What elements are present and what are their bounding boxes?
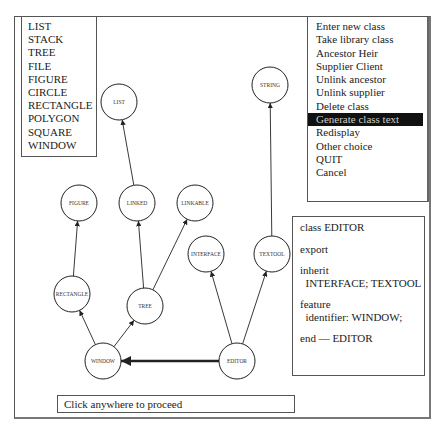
class-text-line: INTERFACE; TEXTOOL bbox=[300, 277, 424, 290]
svg-text:EDITOR: EDITOR bbox=[227, 358, 247, 364]
class-text-panel: class EDITOR export inherit INTERFACE; T… bbox=[292, 216, 425, 376]
class-node-textool[interactable]: TEXTOOL bbox=[254, 236, 290, 272]
class-text-line: export bbox=[300, 243, 424, 256]
menu-item-enter-new-class[interactable]: Enter new class bbox=[308, 20, 427, 33]
class-list-item[interactable]: RECTANGLE bbox=[28, 99, 96, 112]
edge-tree-to-linked bbox=[138, 221, 143, 288]
class-node-window[interactable]: WINDOW bbox=[85, 343, 121, 379]
svg-text:FIGURE: FIGURE bbox=[69, 200, 90, 206]
class-node-editor[interactable]: EDITOR bbox=[219, 343, 255, 379]
edge-editor-to-textool bbox=[243, 271, 267, 344]
class-text-line: class EDITOR bbox=[300, 221, 424, 234]
menu-item-quit[interactable]: QUIT bbox=[308, 153, 427, 166]
svg-text:TEXTOOL: TEXTOOL bbox=[259, 251, 285, 257]
class-list-item[interactable]: TREE bbox=[28, 46, 96, 59]
svg-text:STRING: STRING bbox=[260, 82, 280, 88]
class-list-item[interactable]: SQUARE bbox=[28, 126, 96, 139]
edge-window-to-rectangle bbox=[80, 310, 96, 344]
edge-window-to-tree bbox=[114, 320, 134, 346]
edge-linked-to-list bbox=[122, 120, 134, 186]
svg-text:LINKABLE: LINKABLE bbox=[181, 200, 209, 206]
class-node-string[interactable]: STRING bbox=[252, 67, 288, 103]
menu-item-redisplay[interactable]: Redisplay bbox=[308, 126, 427, 139]
class-list-item[interactable]: LIST bbox=[28, 20, 96, 33]
edge-editor-to-interface bbox=[211, 271, 232, 343]
menu-item-ancestor-heir[interactable]: Ancestor Heir bbox=[308, 47, 427, 60]
svg-text:WINDOW: WINDOW bbox=[91, 358, 116, 364]
class-text-line: feature bbox=[300, 298, 424, 311]
class-node-tree[interactable]: TREE bbox=[127, 288, 163, 324]
svg-text:RECTANGLE: RECTANGLE bbox=[56, 291, 89, 297]
class-list-item[interactable]: FILE bbox=[28, 60, 96, 73]
svg-text:INTERFACE: INTERFACE bbox=[191, 251, 221, 257]
menu-item-generate-class-text[interactable]: Generate class text bbox=[308, 113, 423, 126]
class-list-item[interactable]: STACK bbox=[28, 33, 96, 46]
class-list-item[interactable]: FIGURE bbox=[28, 73, 96, 86]
class-list-panel: LIST STACK TREE FILE FIGURE CIRCLE RECTA… bbox=[21, 16, 97, 157]
edge-textool-to-string bbox=[270, 103, 272, 236]
edge-rectangle-to-figure bbox=[73, 221, 77, 276]
class-list-item[interactable]: POLYGON bbox=[28, 112, 96, 125]
svg-text:LINKED: LINKED bbox=[127, 200, 147, 206]
menu-item-unlink-supplier[interactable]: Unlink supplier bbox=[308, 86, 427, 99]
class-node-list[interactable]: LIST bbox=[101, 84, 137, 120]
class-text-line: identifier: WINDOW; bbox=[300, 311, 424, 324]
class-text-line: end — EDITOR bbox=[300, 332, 424, 345]
status-message-bar[interactable]: Click anywhere to proceed bbox=[57, 395, 295, 413]
class-text-line: inherit bbox=[300, 264, 424, 277]
menu-item-delete-class[interactable]: Delete class bbox=[308, 100, 427, 113]
menu-item-unlink-ancestor[interactable]: Unlink ancestor bbox=[308, 73, 427, 86]
class-node-linked[interactable]: LINKED bbox=[119, 185, 155, 221]
menu-item-cancel[interactable]: Cancel bbox=[308, 166, 427, 179]
edge-tree-to-linkable bbox=[153, 219, 187, 290]
class-node-rectangle[interactable]: RECTANGLE bbox=[54, 276, 90, 312]
class-list-item[interactable]: CIRCLE bbox=[28, 86, 96, 99]
class-node-linkable[interactable]: LINKABLE bbox=[177, 185, 213, 221]
menu-item-take-library-class[interactable]: Take library class bbox=[308, 33, 427, 46]
menu-item-supplier-client[interactable]: Supplier Client bbox=[308, 60, 427, 73]
menu-item-other-choice[interactable]: Other choice bbox=[308, 140, 427, 153]
svg-text:TREE: TREE bbox=[138, 303, 152, 309]
class-node-interface[interactable]: INTERFACE bbox=[188, 236, 224, 272]
command-menu: Enter new class Take library class Ances… bbox=[307, 16, 429, 202]
svg-text:LIST: LIST bbox=[113, 99, 125, 105]
class-node-figure[interactable]: FIGURE bbox=[61, 185, 97, 221]
class-list-item[interactable]: WINDOW bbox=[28, 139, 96, 152]
